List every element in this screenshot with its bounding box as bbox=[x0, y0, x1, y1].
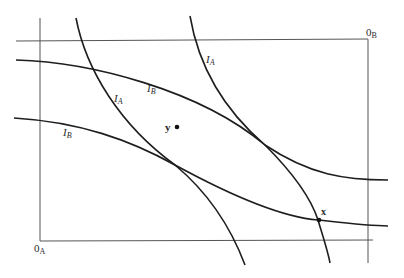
bottom-axis bbox=[40, 240, 373, 241]
origin-a-label: 0A bbox=[34, 242, 46, 256]
indifference-curve-a-left bbox=[76, 18, 245, 265]
curve-label-ia-left: IA bbox=[113, 92, 123, 106]
indifference-curve-b-upper bbox=[16, 60, 388, 180]
top-axis bbox=[16, 39, 368, 41]
point-x-label: x bbox=[321, 206, 326, 217]
edgeworth-box-diagram: IB IB IA IA y x 0A 0B bbox=[0, 0, 404, 278]
origin-b-label: 0B bbox=[366, 26, 377, 40]
indifference-curve-a-right bbox=[190, 16, 330, 263]
curve-label-ib-lower: IB bbox=[62, 126, 72, 140]
point-y-label: y bbox=[165, 121, 171, 133]
point-y-dot bbox=[175, 125, 180, 130]
point-x-dot bbox=[317, 218, 322, 223]
curve-label-ia-right: IA bbox=[205, 53, 215, 67]
